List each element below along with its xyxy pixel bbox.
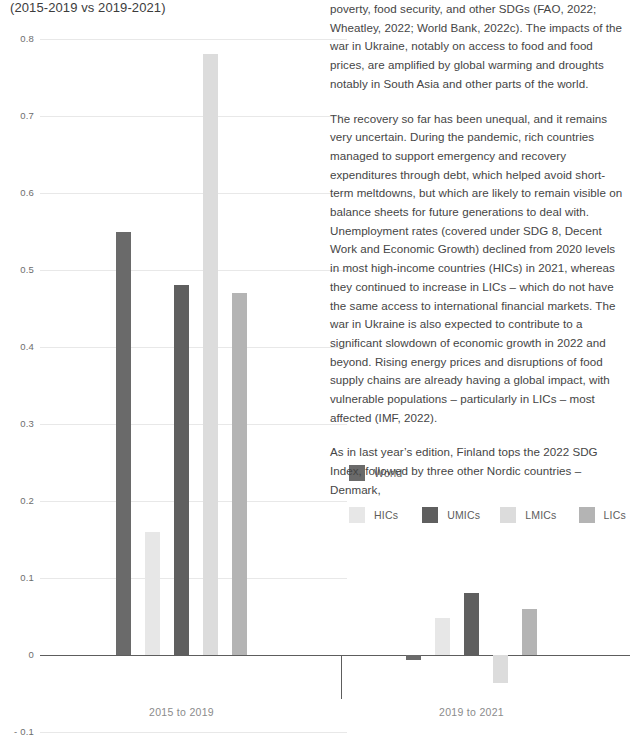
gridline: [40, 424, 347, 425]
y-axis-tick-label: 0.8: [0, 33, 34, 44]
x-axis-category-label: 2019 to 2021: [402, 706, 542, 718]
y-axis-tick-label: 0.5: [0, 264, 34, 275]
chart-panel: (2015-2019 vs 2019-2021) 0.80.70.60.50.4…: [0, 0, 330, 739]
bar: [522, 609, 537, 655]
y-axis-tick-label: 0.4: [0, 341, 34, 352]
body-text-column: poverty, food security, and other SDGs (…: [330, 0, 632, 516]
y-axis-tick-label: 0.2: [0, 495, 34, 506]
axis-zero-line: [40, 655, 630, 656]
bar: [464, 593, 479, 655]
gridline: [40, 732, 347, 733]
bar: [116, 232, 131, 656]
y-axis-tick-label: 0.7: [0, 110, 34, 121]
gridline: [40, 501, 347, 502]
bar: [145, 532, 160, 655]
y-axis-tick-label: - 0.1: [0, 726, 34, 737]
y-axis-tick-label: 0.3: [0, 418, 34, 429]
gridline: [40, 193, 347, 194]
x-axis-category-label: 2015 to 2019: [112, 706, 252, 718]
bar: [232, 293, 247, 655]
gridline: [40, 270, 347, 271]
body-paragraph: The recovery so far has been unequal, an…: [330, 110, 626, 428]
group-divider-tick: [341, 655, 342, 699]
bar: [435, 618, 450, 655]
gridline: [40, 578, 347, 579]
body-paragraph: poverty, food security, and other SDGs (…: [330, 0, 626, 94]
bar: [493, 655, 508, 683]
gridline: [40, 347, 347, 348]
y-axis-tick-label: 0.6: [0, 187, 34, 198]
gridline: [40, 39, 347, 40]
gridline: [40, 116, 347, 117]
body-paragraph: As in last year’s edition, Finland tops …: [330, 443, 626, 499]
bar: [406, 655, 421, 660]
y-axis-tick-label: 0: [0, 649, 34, 660]
bar: [174, 285, 189, 655]
y-axis-tick-label: 0.1: [0, 572, 34, 583]
bar: [203, 54, 218, 655]
